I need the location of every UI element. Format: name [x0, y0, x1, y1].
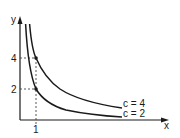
curve-c4 — [30, 24, 122, 108]
tick-label-y4: 4 — [11, 53, 17, 64]
tick-label-y2: 2 — [11, 84, 17, 95]
hyperbola-diagram: y x 4 2 1 c = 4 c = 2 — [0, 0, 180, 138]
point-1-2 — [34, 87, 38, 91]
y-axis-label: y — [11, 14, 16, 25]
x-axis-label: x — [164, 120, 169, 131]
point-1-4 — [34, 56, 38, 60]
y-axis-arrow-icon — [18, 16, 23, 24]
curve-label-c2: c = 2 — [123, 108, 145, 119]
curve-c2 — [26, 24, 122, 117]
tick-label-x1: 1 — [33, 124, 39, 135]
